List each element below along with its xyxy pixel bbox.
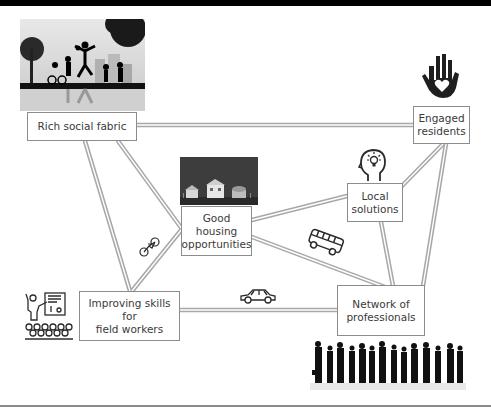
node-label-line3: opportunities (182, 238, 252, 251)
node-label-line2: solutions (351, 203, 398, 216)
node-label-line1: Network of (352, 298, 409, 311)
houses-night-photo (180, 157, 258, 205)
bus-icon (306, 228, 346, 258)
head-lightbulb-icon (358, 147, 388, 182)
business-people-silhouettes (310, 340, 466, 390)
node-local-solutions: Local solutions (347, 183, 403, 222)
node-label-line1: Improving skills for (84, 297, 175, 323)
node-label-line2: professionals (346, 311, 415, 324)
node-label-line2: residents (417, 125, 465, 138)
node-label-line1: Local (361, 190, 388, 203)
node-improving-skills: Improving skills for field workers (79, 291, 180, 341)
node-label-line2: housing (196, 225, 237, 238)
children-playing-park-photo (20, 19, 145, 111)
node-label-line1: Good (203, 212, 231, 225)
node-rich-social-fabric: Rich social fabric (27, 112, 137, 141)
node-good-housing: Good housing opportunities (181, 206, 252, 256)
node-label: Rich social fabric (37, 120, 126, 133)
bottom-divider (0, 405, 491, 407)
bicycle-icon (139, 236, 161, 258)
node-engaged-residents: Engaged residents (413, 106, 470, 144)
teacher-audience-icon (23, 290, 75, 342)
node-network-professionals: Network of professionals (337, 285, 425, 336)
node-label-line2: field workers (96, 323, 163, 336)
hand-heart-icon (421, 50, 461, 100)
node-label-line1: Engaged (418, 112, 464, 125)
car-icon (238, 286, 278, 306)
